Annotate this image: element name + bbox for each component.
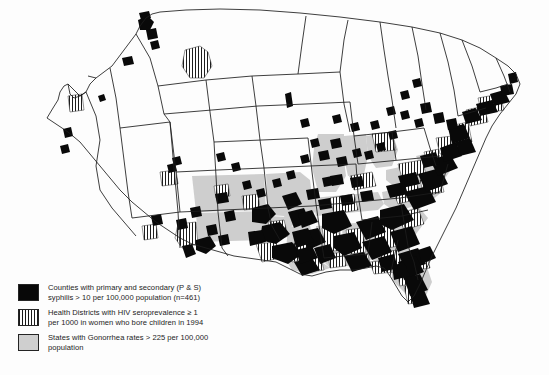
legend-syphilis-line2: syphilis > 10 per 100,000 population (n=… [48,293,201,303]
vertical-hatch-swatch [18,309,39,326]
legend-hiv-line2: per 1000 in women who bore children in 1… [48,318,203,328]
map-legend: Counties with primary and secondary (P &… [18,283,280,359]
legend-item-syphilis: Counties with primary and secondary (P &… [18,283,280,302]
legend-gonorrhea-line1: States with Gonorrhea rates > 225 per 10… [48,333,208,343]
legend-item-hiv-label: Health Districts with HIV seroprevalence… [48,308,203,327]
solid-black-swatch [18,284,39,301]
legend-item-gonorrhea: States with Gonorrhea rates > 225 per 10… [18,333,280,352]
map-page: Counties with primary and secondary (P &… [0,0,549,375]
legend-syphilis-line1: Counties with primary and secondary (P &… [48,283,201,293]
legend-item-gonorrhea-label: States with Gonorrhea rates > 225 per 10… [48,333,208,352]
legend-item-hiv: Health Districts with HIV seroprevalence… [18,308,280,327]
legend-item-syphilis-label: Counties with primary and secondary (P &… [48,283,201,302]
legend-hiv-line1: Health Districts with HIV seroprevalence… [48,308,203,318]
legend-gonorrhea-line2: population [48,343,208,353]
light-gray-swatch [18,334,39,351]
